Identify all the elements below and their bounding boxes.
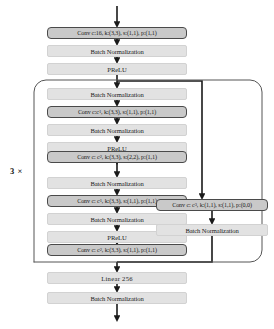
node-block-batchnorm-2: Batch Normalization xyxy=(47,124,187,136)
node-block-batchnorm-3: Batch Normalization xyxy=(47,177,187,189)
node-stem-conv: Conv c:16, k:(3,3), s:(1,1), p:(1,1) xyxy=(47,27,187,39)
node-shortcut-conv: Conv c: c3, k:(1,1), s:(1,1), p:(0,0) xyxy=(156,199,268,211)
node-block-conv-1: Conv c:c1, k:(3,3), s:(1,1), p:(1,1) xyxy=(47,106,187,118)
node-block-conv-2: Conv c: c2, k:(3,3), s:(2,2), p:(1,1) xyxy=(47,151,187,163)
architecture-diagram: 3 × Conv c:16, k:(3,3), s:(1,1), p:(1,1)… xyxy=(0,0,274,329)
node-stem-batchnorm: Batch Normalization xyxy=(47,45,187,57)
node-head-linear: Linear 256 xyxy=(47,272,187,284)
node-stem-prelu: PReLU xyxy=(47,63,187,75)
node-head-batchnorm: Batch Normalization xyxy=(47,292,187,304)
node-block-batchnorm-1: Batch Normalization xyxy=(47,88,187,100)
node-block-conv-4: Conv c: c2, k:(3,3), s:(1,1), p:(1,1) xyxy=(47,244,187,256)
repeat-count-label: 3 × xyxy=(10,166,23,176)
node-shortcut-batchnorm: Batch Normalization xyxy=(156,224,268,236)
